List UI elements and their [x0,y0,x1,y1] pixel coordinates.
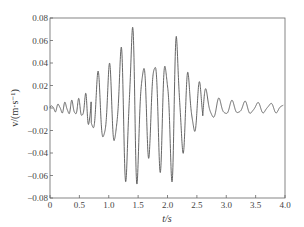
x-axis-ticks: 00.51.01.52.02.53.03.54.0 [48,195,291,210]
x-tick-label: 1.5 [133,200,145,210]
x-tick-label: 3.0 [221,200,233,210]
y-tick-label: 0.02 [32,81,48,91]
y-tick-label: 0.06 [32,36,48,46]
y-axis-label: v/(m·s⁻¹) [9,89,21,126]
x-tick-label: 2.0 [162,200,174,210]
x-tick-label: 0 [48,200,53,210]
y-tick-label: −0.08 [27,193,48,203]
velocity-trace [50,27,283,184]
y-tick-label: 0.04 [32,58,48,68]
velocity-time-chart: 0.080.060.040.020−0.02−0.04−0.06−0.08 00… [0,0,304,227]
y-axis-ticks: 0.080.060.040.020−0.02−0.04−0.06−0.08 [27,13,53,203]
x-tick-label: 4.0 [279,200,291,210]
y-tick-label: −0.04 [27,148,48,158]
x-tick-label: 2.5 [191,200,203,210]
x-tick-label: 3.5 [250,200,262,210]
y-tick-label: −0.02 [27,126,48,136]
x-axis-label: t/s [162,213,172,224]
x-tick-label: 1.0 [103,200,115,210]
y-tick-label: 0 [44,103,49,113]
y-tick-label: 0.08 [32,13,48,23]
plot-frame [50,18,285,198]
x-tick-label: 0.5 [74,200,86,210]
y-tick-label: −0.06 [27,171,48,181]
